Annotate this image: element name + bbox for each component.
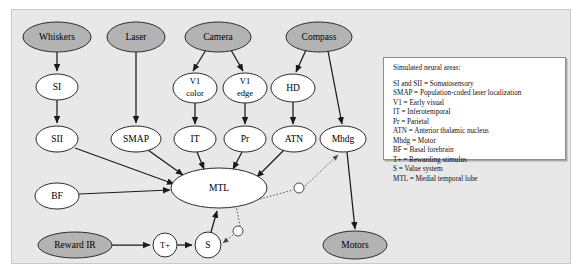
- node-si[interactable]: SI: [36, 74, 78, 100]
- node-v1-edge-label-line1: V1: [240, 76, 250, 86]
- node-whiskers[interactable]: Whiskers: [23, 22, 91, 52]
- node-mtl-label: MTL: [209, 183, 229, 193]
- node-v1-color-label-line1: V1: [190, 76, 200, 86]
- legend-line-atn: ATN = Anterior thalamic nucleus: [393, 127, 557, 137]
- node-atn[interactable]: ATN: [272, 126, 316, 152]
- node-t-plus-label: T+: [160, 240, 170, 250]
- node-pr-label: Pr: [241, 134, 250, 144]
- node-laser[interactable]: Laser: [107, 22, 165, 52]
- node-camera-label: Camera: [203, 32, 233, 42]
- node-reward-ir-label: Reward IR: [54, 240, 96, 250]
- node-laser-label: Laser: [125, 32, 147, 42]
- node-v1-edge-label-line2: edge: [237, 88, 253, 98]
- edge-mod-mtl-mhdg-b: [305, 155, 338, 186]
- figure-canvas: Whiskers Laser Camera Compass SI V1: [0, 0, 580, 271]
- legend-line-mtl: MTL = Medial temporal lobe: [393, 175, 557, 185]
- legend-line-smap: SMAP = Population-coded laser localizati…: [393, 89, 557, 99]
- legend-line-mhdg: Mhdg = Motor: [393, 137, 557, 147]
- modulatory-circle-mhdg: [294, 183, 304, 193]
- legend-line-t-plus: T+ = Rewarding stimulus: [393, 156, 557, 166]
- node-hd-label: HD: [286, 83, 300, 93]
- node-si-label: SI: [53, 82, 61, 92]
- edge-s-mtl: [211, 211, 217, 232]
- edge-it-mtl: [197, 152, 204, 169]
- node-bf-label: BF: [51, 191, 63, 201]
- node-it[interactable]: IT: [174, 126, 216, 152]
- node-mhdg[interactable]: Mhdg: [320, 126, 366, 152]
- node-layer: Whiskers Laser Camera Compass SI V1: [23, 22, 387, 259]
- node-t-plus[interactable]: T+: [153, 233, 177, 257]
- legend-line-bf: BF = Basal forebrain: [393, 146, 557, 156]
- edge-mod-mtl-s-a: [236, 205, 240, 226]
- node-motors[interactable]: Motors: [323, 231, 387, 259]
- edge-compass-hd: [296, 50, 306, 72]
- edge-camera-v1edge: [231, 50, 243, 71]
- node-reward-ir[interactable]: Reward IR: [38, 232, 112, 258]
- edge-pr-mtl: [233, 152, 242, 169]
- legend-line-pr: Pr = Parietal: [393, 118, 557, 128]
- node-smap[interactable]: SMAP: [111, 126, 161, 152]
- edge-mhdg-motors: [347, 152, 355, 229]
- node-compass-label: Compass: [302, 32, 337, 42]
- node-v1-edge[interactable]: V1 edge: [223, 73, 267, 103]
- node-sii-label: SII: [51, 134, 63, 144]
- node-it-label: IT: [191, 134, 200, 144]
- legend-line-v1: V1 = Early visual: [393, 99, 557, 109]
- node-camera[interactable]: Camera: [185, 22, 251, 52]
- node-hd[interactable]: HD: [271, 74, 315, 102]
- node-s[interactable]: S: [195, 232, 221, 258]
- legend-title: Simulated neural areas:: [393, 65, 557, 73]
- edge-smap-mtl: [148, 150, 183, 175]
- node-s-label: S: [205, 240, 210, 250]
- node-smap-label: SMAP: [123, 134, 149, 144]
- legend-box: Simulated neural areas: SI and SII = Som…: [383, 57, 566, 160]
- edge-sii-mtl: [75, 148, 174, 184]
- legend-line-si-sii: SI and SII = Somatosensory: [393, 80, 557, 90]
- legend-line-it: IT = Inferotemporal: [393, 108, 557, 118]
- edge-bf-mtl: [79, 190, 170, 194]
- edge-camera-v1color: [193, 50, 206, 71]
- node-mhdg-label: Mhdg: [332, 134, 355, 144]
- modulatory-circle-s: [233, 226, 243, 236]
- node-motors-label: Motors: [341, 240, 369, 250]
- node-v1-color-label-line2: color: [186, 88, 204, 98]
- node-whiskers-label: Whiskers: [39, 32, 75, 42]
- node-pr[interactable]: Pr: [224, 126, 266, 152]
- node-sii[interactable]: SII: [36, 126, 78, 152]
- edge-atn-mtl: [257, 150, 284, 177]
- node-bf[interactable]: BF: [35, 183, 79, 209]
- legend-line-s: S = Value system: [393, 165, 557, 175]
- edge-mod-mtl-s-b: [223, 235, 233, 243]
- node-mtl[interactable]: MTL: [171, 168, 267, 208]
- node-v1-color[interactable]: V1 color: [173, 73, 217, 103]
- node-atn-label: ATN: [285, 134, 304, 144]
- node-compass[interactable]: Compass: [286, 22, 352, 52]
- edge-compass-mhdg: [328, 51, 342, 124]
